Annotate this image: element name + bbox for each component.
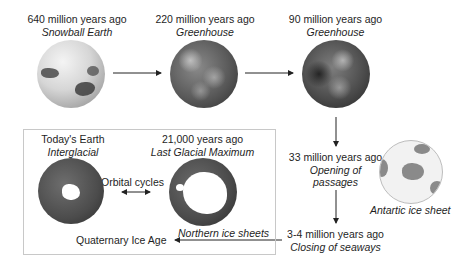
stage-name: Last Glacial Maximum	[145, 146, 260, 159]
stage-name: Greenhouse	[150, 26, 260, 39]
last-glacial-maximum-globe	[169, 158, 237, 226]
stage-time: 33 million years ago	[283, 151, 388, 164]
stage-21000-label: 21,000 years ago Last Glacial Maximum	[145, 133, 260, 158]
northern-ice-sheets-label: Northern ice sheets	[178, 227, 269, 239]
stage-time: 640 million years ago	[22, 13, 132, 26]
stage-name: Interglacial	[28, 146, 118, 159]
stage-name-line2: passages	[283, 176, 388, 189]
stage-time: 3-4 million years ago	[278, 228, 393, 241]
greenhouse-220-globe	[170, 40, 238, 108]
antarctic-ice-sheet-globe	[379, 140, 443, 204]
stage-3-4-label: 3-4 million years ago Closing of seaways	[278, 228, 393, 253]
snowball-earth-globe	[37, 40, 105, 108]
stage-time: Today's Earth	[28, 133, 118, 146]
antarctic-ice-sheet-label: Antartic ice sheet	[370, 204, 451, 216]
stage-220-label: 220 million years ago Greenhouse	[150, 13, 260, 38]
greenhouse-90-globe	[302, 40, 370, 108]
stage-name: Snowball Earth	[22, 26, 132, 39]
quaternary-ice-age-label: Quaternary Ice Age	[76, 234, 166, 246]
stage-90-label: 90 million years ago Greenhouse	[283, 13, 388, 38]
stage-time: 220 million years ago	[150, 13, 260, 26]
orbital-cycles-label: Orbital cycles	[101, 176, 164, 188]
stage-time: 90 million years ago	[283, 13, 388, 26]
stage-today-label: Today's Earth Interglacial	[28, 133, 118, 158]
today-earth-globe	[38, 158, 104, 224]
stage-33-label: 33 million years ago Opening of passages	[283, 151, 388, 189]
stage-name: Greenhouse	[283, 26, 388, 39]
stage-name-line1: Opening of	[283, 164, 388, 177]
stage-640-label: 640 million years ago Snowball Earth	[22, 13, 132, 38]
stage-name: Closing of seaways	[278, 241, 393, 254]
stage-time: 21,000 years ago	[145, 133, 260, 146]
